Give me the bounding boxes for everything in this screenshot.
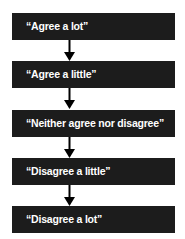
arrow-down-icon [64,88,75,109]
node-disagree-a-lot: “Disagree a lot” [12,206,175,233]
arrow-down-icon [64,40,75,61]
node-agree-a-lot: “Agree a lot” [12,13,175,40]
node-agree-a-little: “Agree a little” [12,61,175,88]
arrow-down-icon [64,185,75,206]
node-neither-agree-nor-disagree: “Neither agree nor disagree” [12,110,175,137]
arrow-down-icon [64,137,75,158]
likert-scale-flowchart: “Agree a lot” “Agree a little” “Neither … [0,0,185,239]
node-disagree-a-little: “Disagree a little” [12,158,175,185]
